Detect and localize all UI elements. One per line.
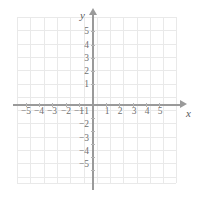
grid-line-vertical	[163, 17, 164, 183]
grid-lines	[17, 17, 176, 183]
y-axis-tick	[91, 157, 95, 158]
grid-line-horizontal	[17, 84, 176, 85]
grid-line-horizontal	[17, 137, 176, 138]
y-tick-label-neg4: −4	[73, 147, 89, 157]
grid-line-horizontal	[17, 57, 176, 58]
grid-line-vertical	[97, 17, 98, 183]
x-tick-label-5: 5	[152, 107, 168, 117]
y-tick-label-neg1: −1	[73, 107, 89, 117]
y-tick-label-1: 1	[73, 80, 89, 90]
grid-line-vertical	[17, 17, 18, 183]
grid-line-vertical	[123, 17, 124, 183]
y-axis-arrowhead-icon	[89, 8, 97, 15]
grid-line-vertical	[150, 17, 151, 183]
grid-line-horizontal	[17, 70, 176, 71]
grid-line-horizontal	[17, 123, 176, 124]
y-axis-tick	[91, 31, 95, 32]
y-tick-label-3: 3	[73, 54, 89, 64]
y-axis-tick	[91, 45, 95, 46]
y-tick-label-2: 2	[73, 67, 89, 77]
y-axis-label: y	[80, 10, 85, 21]
y-axis-tick	[91, 144, 95, 145]
y-axis-tick	[91, 118, 95, 119]
y-tick-label-neg2: −2	[73, 120, 89, 130]
grid-line-horizontal	[17, 183, 176, 184]
grid-line-vertical	[30, 17, 31, 183]
y-axis-tick	[91, 58, 95, 59]
grid-line-horizontal	[17, 97, 176, 98]
grid-line-horizontal	[17, 163, 176, 164]
grid-line-vertical	[70, 17, 71, 183]
y-axis-tick	[91, 170, 95, 171]
y-tick-label-neg3: −3	[73, 134, 89, 144]
grid-line-vertical	[57, 17, 58, 183]
y-tick-label-neg5: −5	[73, 160, 89, 170]
grid-line-horizontal	[17, 177, 176, 178]
grid-line-vertical	[137, 17, 138, 183]
coordinate-plane-figure: −5 −4 −3 −2 −1 1 2 3 4 5 5 4 3 2 1 −1 −2…	[0, 0, 199, 199]
grid-line-horizontal	[17, 17, 176, 18]
y-axis-tick	[91, 84, 95, 85]
y-axis-line	[92, 14, 94, 190]
grid-line-vertical	[44, 17, 45, 183]
x-axis-label: x	[186, 108, 191, 119]
y-tick-label-5: 5	[73, 27, 89, 37]
grid-line-horizontal	[17, 150, 176, 151]
y-axis-tick	[91, 71, 95, 72]
y-tick-label-4: 4	[73, 41, 89, 51]
grid-line-horizontal	[17, 44, 176, 45]
grid-line-vertical	[176, 17, 177, 183]
grid-line-horizontal	[17, 30, 176, 31]
y-axis-tick	[91, 131, 95, 132]
grid-line-vertical	[110, 17, 111, 183]
